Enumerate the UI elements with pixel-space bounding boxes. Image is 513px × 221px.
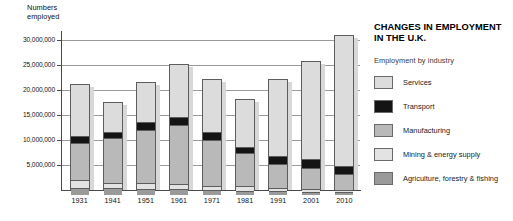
chart-title: CHANGES IN EMPLOYMENT IN THE U.K. — [374, 22, 502, 44]
bar-segment — [302, 159, 320, 168]
bar-2001[interactable] — [301, 61, 321, 190]
bar-1961[interactable] — [169, 64, 189, 190]
bar-segment — [104, 188, 122, 195]
legend-item[interactable]: Manufacturing — [374, 118, 513, 142]
y-tick-label: 15,000,000 — [0, 111, 55, 118]
y-tick-label: 5,000,000 — [0, 161, 55, 168]
bar-segment — [302, 192, 320, 195]
bar-2010[interactable] — [334, 35, 354, 191]
bar-segment — [302, 62, 320, 160]
bar-segment — [203, 80, 221, 133]
bar-segment — [269, 80, 287, 157]
bar-segment — [335, 192, 353, 195]
bar-segment — [236, 153, 254, 186]
bar-segment — [269, 164, 287, 189]
bar-segment — [137, 122, 155, 131]
bar-segment — [335, 174, 353, 190]
bar-segment — [302, 168, 320, 190]
legend-swatch — [374, 172, 393, 185]
bar-segment — [335, 36, 353, 166]
bar-segment — [203, 140, 221, 186]
y-tick-label: 30,000,000 — [0, 36, 55, 43]
y-tick-mark — [57, 115, 62, 116]
bar-segment — [137, 83, 155, 122]
bar-segment — [71, 188, 89, 196]
bar-segment — [170, 117, 188, 125]
bar-segment — [170, 125, 188, 184]
legend-item[interactable]: Mining & energy supply — [374, 142, 513, 166]
bar-segment — [71, 180, 89, 187]
y-axis-title: Numbers employed — [27, 3, 59, 22]
bar-segment — [71, 85, 89, 137]
bar-1991[interactable] — [268, 79, 288, 190]
bar-segment — [71, 143, 89, 180]
bar-segment — [137, 189, 155, 195]
legend-item[interactable]: Agriculture, forestry & fishing — [374, 166, 513, 190]
bar-segment — [71, 136, 89, 143]
legend-item[interactable]: Transport — [374, 94, 513, 118]
y-tick-mark — [57, 40, 62, 41]
info-panel: CHANGES IN EMPLOYMENT IN THE U.K. Employ… — [374, 0, 513, 221]
bar-segment — [269, 156, 287, 164]
chart-panel: Numbers employed 5,000,00010,000,00015,0… — [0, 0, 370, 221]
bar-segment — [335, 166, 353, 174]
legend-swatch — [374, 148, 393, 161]
bar-segment — [104, 103, 122, 133]
bar-segment — [137, 130, 155, 183]
legend-swatch — [374, 76, 393, 89]
y-tick-mark — [57, 165, 62, 166]
legend: ServicesTransportManufacturingMining & e… — [374, 70, 513, 190]
x-tick-label: 2010 — [324, 196, 364, 205]
y-tick-label: 10,000,000 — [0, 136, 55, 143]
bar-1941[interactable] — [103, 102, 123, 190]
y-tick-mark — [57, 65, 62, 66]
bar-segment — [236, 100, 254, 147]
bar-segment — [236, 191, 254, 195]
y-tick-mark — [57, 90, 62, 91]
bar-segment — [203, 190, 221, 195]
y-tick-mark — [57, 140, 62, 141]
legend-label: Agriculture, forestry & fishing — [403, 174, 498, 183]
gridline — [62, 40, 360, 41]
bar-1931[interactable] — [70, 84, 90, 190]
legend-label: Transport — [403, 102, 435, 111]
y-tick-label: 25,000,000 — [0, 61, 55, 68]
bar-segment — [203, 132, 221, 140]
legend-swatch — [374, 124, 393, 137]
y-tick-label: 20,000,000 — [0, 86, 55, 93]
bar-segment — [104, 138, 122, 183]
legend-item[interactable]: Services — [374, 70, 513, 94]
plot-area — [62, 32, 360, 190]
bar-segment — [170, 189, 188, 195]
legend-label: Manufacturing — [403, 126, 450, 135]
legend-label: Mining & energy supply — [403, 150, 480, 159]
bar-segment — [269, 191, 287, 195]
bar-1951[interactable] — [136, 82, 156, 190]
bar-segment — [170, 65, 188, 117]
legend-label: Services — [403, 78, 432, 87]
bar-1971[interactable] — [202, 79, 222, 190]
chart-page: Numbers employed 5,000,00010,000,00015,0… — [0, 0, 513, 221]
legend-heading: Employment by industry — [374, 56, 454, 65]
bar-1981[interactable] — [235, 99, 255, 190]
legend-swatch — [374, 100, 393, 113]
